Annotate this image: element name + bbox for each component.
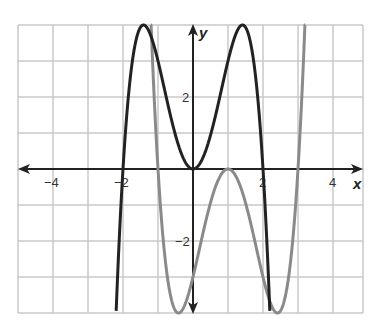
y-axis-label: y <box>198 24 208 41</box>
y-tick-label: 2 <box>182 90 189 105</box>
x-tick-label: −4 <box>44 175 59 190</box>
x-axis-label: x <box>352 175 362 192</box>
x-tick-label: 4 <box>329 175 336 190</box>
y-tick-label: −2 <box>175 234 190 249</box>
function-graph: −4−2242−2 x y <box>0 0 375 328</box>
